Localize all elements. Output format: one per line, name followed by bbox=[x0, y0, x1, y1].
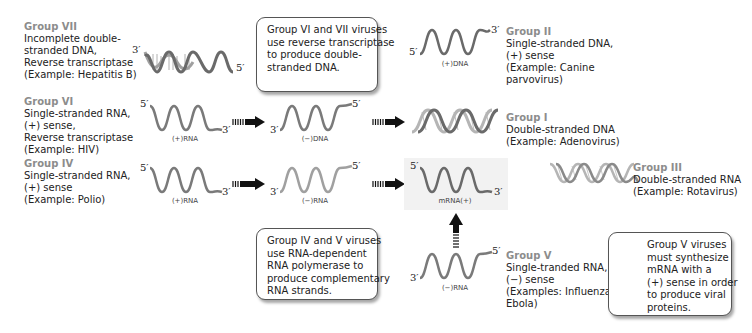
end-label-5prime: 5′ bbox=[352, 98, 361, 109]
minus-rna-strand-icon bbox=[280, 166, 352, 194]
group-line: (Example: HIV) bbox=[24, 144, 133, 156]
group-line: (Example: Canine bbox=[506, 62, 613, 74]
group-title: Group VII bbox=[24, 21, 137, 33]
note-line: must synthesize bbox=[647, 252, 721, 265]
end-label-3prime: 3′ bbox=[132, 44, 141, 55]
group-line: (Example: Polio) bbox=[24, 194, 131, 206]
strand-label-plus-rna: (+)RNA bbox=[160, 197, 210, 205]
note-line: (+) sense in order bbox=[647, 277, 721, 290]
group-line: (+) sense bbox=[506, 50, 613, 62]
dashed-arrow-icon bbox=[372, 178, 406, 190]
group-title: Group I bbox=[506, 112, 620, 124]
group-line: (Examples: Influenza, bbox=[506, 286, 614, 298]
group-line: (Example: Rotavirus) bbox=[633, 186, 741, 198]
mrna-strand-icon bbox=[420, 166, 492, 194]
plus-dna-strand-icon bbox=[420, 28, 492, 56]
group-line: Single-stranded RNA, bbox=[24, 108, 133, 120]
note-line: to produce double- bbox=[267, 49, 367, 62]
note-line: mRNA with a bbox=[647, 264, 721, 277]
note-group-v: Group V viruses must synthesize mRNA wit… bbox=[608, 232, 732, 316]
incomplete-dsdna-helix-icon bbox=[145, 50, 235, 74]
minus-dna-strand-icon bbox=[280, 104, 352, 132]
group-line: (+) sense bbox=[24, 182, 131, 194]
solid-arrow-icon bbox=[232, 178, 266, 190]
group-iii-description: Group III Double-stranded RNA (Example: … bbox=[633, 162, 741, 198]
end-label-5prime: 5′ bbox=[352, 160, 361, 171]
dsdna-helix-icon bbox=[412, 108, 502, 134]
group-iv-description: Group IV Single-stranded RNA, (+) sense … bbox=[24, 158, 131, 206]
strand-label-plus-dna: (+)DNA bbox=[430, 60, 480, 68]
group-line: Reverse transcriptase bbox=[24, 57, 137, 69]
dashed-arrow-icon bbox=[232, 116, 266, 128]
note-line: Group V viruses bbox=[647, 239, 721, 252]
minus-rna-strand-icon bbox=[420, 252, 492, 280]
strand-label-minus-rna: (−)RNA bbox=[290, 197, 340, 205]
note-reverse-transcriptase: Group VI and VII viruses use reverse tra… bbox=[256, 17, 378, 92]
note-line: to produce viral bbox=[647, 289, 721, 302]
group-line: (Example: Hepatitis B) bbox=[24, 69, 137, 81]
end-label-3prime: 3′ bbox=[270, 124, 279, 135]
end-label-3prime: 3′ bbox=[491, 24, 500, 35]
group-v-description: Group V Single-tranded RNA, (−) sense (E… bbox=[506, 250, 614, 310]
group-line: (+) sense, bbox=[24, 120, 133, 132]
end-label-3prime: 3′ bbox=[222, 186, 231, 197]
group-vii-description: Group VII Incomplete double- stranded DN… bbox=[24, 21, 137, 81]
group-line: stranded DNA, bbox=[24, 45, 137, 57]
group-title: Group VI bbox=[24, 96, 133, 108]
end-label-3prime: 3′ bbox=[410, 272, 419, 283]
plus-rna-strand-icon bbox=[150, 166, 222, 194]
note-rna-dependent-polymerase: Group IV and V viruses use RNA-dependent… bbox=[256, 228, 378, 300]
group-title: Group II bbox=[506, 26, 613, 38]
note-line: RNA polymerase to bbox=[267, 260, 367, 273]
end-label-3prime: 3′ bbox=[494, 186, 503, 197]
strand-label-minus-rna: (−)RNA bbox=[430, 284, 480, 292]
note-line: proteins. bbox=[647, 302, 721, 315]
note-line: stranded DNA. bbox=[267, 62, 367, 75]
group-title: Group III bbox=[633, 162, 741, 174]
group-line: (Example: Adenovirus) bbox=[506, 136, 620, 148]
note-line: Group VI and VII viruses bbox=[267, 24, 367, 37]
group-line: (−) sense bbox=[506, 274, 614, 286]
end-label-3prime: 3′ bbox=[222, 124, 231, 135]
note-line: Group IV and V viruses bbox=[267, 235, 367, 248]
end-label-5prime: 5′ bbox=[410, 160, 419, 171]
group-title: Group V bbox=[506, 250, 614, 262]
end-label-5prime: 5′ bbox=[492, 245, 501, 256]
note-line: produce complementary bbox=[267, 273, 367, 286]
end-label-5prime: 5′ bbox=[409, 46, 418, 57]
end-label-5prime: 5′ bbox=[140, 98, 149, 109]
group-line: Incomplete double- bbox=[24, 33, 137, 45]
group-line: parvovirus) bbox=[506, 74, 613, 86]
group-vi-description: Group VI Single-stranded RNA, (+) sense,… bbox=[24, 96, 133, 156]
strand-label-plus-rna: (+)RNA bbox=[160, 135, 210, 143]
group-line: Reverse transcriptase bbox=[24, 132, 133, 144]
dsrna-helix-icon bbox=[550, 162, 640, 184]
group-line: Double-stranded RNA bbox=[633, 174, 741, 186]
note-line: RNA strands. bbox=[267, 285, 367, 298]
end-label-5prime: 5′ bbox=[140, 162, 149, 173]
group-line: Ebola) bbox=[506, 298, 614, 310]
group-ii-description: Group II Single-stranded DNA, (+) sense … bbox=[506, 26, 613, 86]
note-line: use reverse transcriptase bbox=[267, 37, 367, 50]
group-line: Single-stranded DNA, bbox=[506, 38, 613, 50]
group-line: Double-stranded DNA bbox=[506, 124, 620, 136]
end-label-3prime: 3′ bbox=[270, 186, 279, 197]
group-title: Group IV bbox=[24, 158, 131, 170]
group-i-description: Group I Double-stranded DNA (Example: Ad… bbox=[506, 112, 620, 148]
end-label-5prime: 5′ bbox=[236, 62, 245, 73]
group-line: Single-tranded RNA, bbox=[506, 262, 614, 274]
strand-label-mrna: mRNA(+) bbox=[430, 197, 480, 205]
strand-label-minus-dna: (−)DNA bbox=[290, 135, 340, 143]
plus-rna-strand-icon bbox=[150, 104, 222, 132]
note-line: use RNA-dependent bbox=[267, 248, 367, 261]
up-arrow-icon bbox=[449, 213, 463, 249]
group-line: Single-stranded RNA, bbox=[24, 170, 131, 182]
dashed-arrow-icon bbox=[372, 116, 406, 128]
